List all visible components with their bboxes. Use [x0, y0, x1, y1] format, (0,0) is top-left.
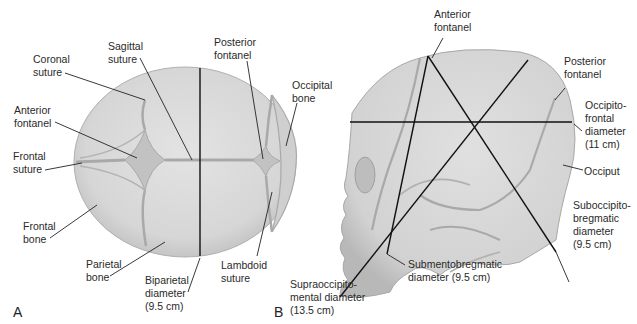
label-anterior-fontanel-b: Anterior fontanel: [434, 8, 471, 34]
label-coronal-suture: Coronal suture: [33, 53, 70, 79]
panel-letter-a: A: [13, 304, 22, 320]
label-suboccipitobregmatic-diameter: Suboccipito- bregmatic diameter (9.5 cm): [573, 199, 631, 251]
label-occipital-bone: Occipital bone: [292, 79, 332, 105]
label-supraoccipitomental-diameter: Supraoccipito- mental diameter (13.5 cm): [290, 278, 365, 317]
label-sagittal-suture: Sagittal suture: [108, 40, 143, 66]
label-occiput: Occiput: [584, 165, 620, 178]
label-biparietal-diameter: Biparietal diameter (9.5 cm): [145, 274, 189, 313]
panel-letter-b: B: [274, 304, 283, 320]
label-posterior-fontanel-b: Posterior fontanel: [564, 55, 606, 81]
label-lambdoid-suture: Lambdoid suture: [221, 259, 267, 285]
label-anterior-fontanel-a: Anterior fontanel: [14, 104, 51, 130]
label-posterior-fontanel-a: Posterior fontanel: [214, 36, 256, 62]
label-submentobregmatic-diameter: Submentobregmatic diameter (9.5 cm): [408, 258, 502, 284]
label-parietal-bone: Parietal bone: [86, 258, 122, 284]
label-frontal-bone: Frontal bone: [23, 220, 56, 246]
label-occipitofrontal-diameter: Occipito- frontal diameter (11 cm): [585, 99, 626, 151]
label-frontal-suture: Frontal suture: [13, 150, 46, 176]
